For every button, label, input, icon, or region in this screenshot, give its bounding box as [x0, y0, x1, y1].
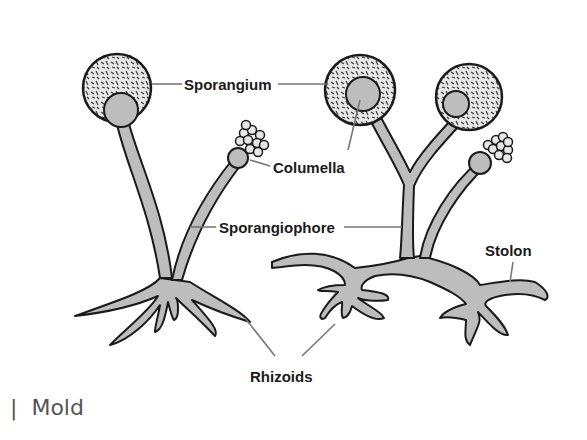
mold-diagram: Sporangium Columella Sporangiophore Stol…	[0, 0, 587, 440]
label-stolon: Stolon	[485, 242, 532, 259]
label-rhizoids: Rhizoids	[250, 368, 313, 385]
rhizoids-leader-right	[302, 324, 335, 356]
left-small-columella	[228, 148, 248, 168]
right-organism	[272, 55, 548, 345]
label-columella: Columella	[273, 159, 345, 176]
middle-columella	[346, 77, 380, 111]
right-sporangiophore	[366, 108, 470, 258]
left-rhizoids	[75, 278, 250, 345]
stolon-and-right-rhizoids	[272, 254, 548, 345]
left-sporangiophore	[116, 120, 172, 278]
columella-leader-left	[250, 160, 270, 166]
right-third-stalk	[420, 160, 486, 258]
label-sporangiophore: Sporangiophore	[219, 219, 335, 236]
left-organism	[75, 54, 269, 345]
caption-separator: |	[10, 395, 17, 420]
left-columella	[104, 93, 138, 127]
label-sporangium: Sporangium	[184, 76, 272, 93]
right-small-columella	[469, 152, 491, 174]
caption: | Mold	[10, 395, 84, 420]
stolon-leader	[510, 262, 513, 282]
caption-text: Mold	[31, 395, 84, 420]
right-columella	[443, 91, 469, 117]
rhizoids-leader-left	[245, 318, 275, 356]
